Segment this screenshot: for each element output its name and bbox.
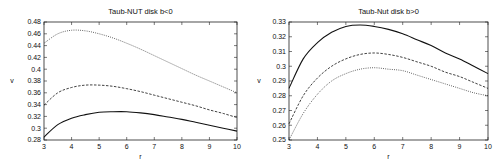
left-chart-panel: Taub-NUT disk b<03456789100.280.30.320.3… xyxy=(0,0,249,161)
y-tick-label: 0.32 xyxy=(272,33,286,40)
x-tick-label: 10 xyxy=(233,143,241,150)
x-tick-label: 4 xyxy=(70,143,74,150)
x-tick-label: 6 xyxy=(125,143,129,150)
y-tick-label: 0.25 xyxy=(272,136,286,143)
y-tick-label: 0.46 xyxy=(27,30,41,37)
y-tick-label: 0.29 xyxy=(272,77,286,84)
x-tick-label: 7 xyxy=(401,143,405,150)
y-tick-label: 0.32 xyxy=(27,113,41,120)
y-axis-label: v xyxy=(10,77,14,84)
x-tick-label: 3 xyxy=(42,143,46,150)
x-axis-label: r xyxy=(139,153,142,160)
plot-frame xyxy=(44,22,237,140)
x-tick-label: 9 xyxy=(458,143,462,150)
y-axis-label: v xyxy=(257,77,261,84)
y-tick-label: 0.44 xyxy=(27,42,41,49)
x-tick-label: 5 xyxy=(344,143,348,150)
x-tick-label: 3 xyxy=(287,143,291,150)
x-tick-label: 8 xyxy=(180,143,184,150)
y-tick-label: 0.26 xyxy=(272,122,286,129)
series-line-dashed xyxy=(289,53,488,124)
y-tick-label: 0.48 xyxy=(27,18,41,25)
x-tick-label: 9 xyxy=(207,143,211,150)
y-tick-label: 0.27 xyxy=(272,107,286,114)
series-line-solid xyxy=(289,25,488,88)
y-tick-label: 0.28 xyxy=(272,92,286,99)
y-tick-label: 0.34 xyxy=(27,101,41,108)
plot-frame xyxy=(289,22,488,140)
x-tick-label: 4 xyxy=(315,143,319,150)
series-line-dotted xyxy=(44,30,237,93)
right-chart-panel: Taub-Nut disk b>03456789100.250.260.270.… xyxy=(249,0,498,161)
y-tick-label: 0.31 xyxy=(272,48,286,55)
chart-taub-nut-b-positive: Taub-Nut disk b>03456789100.250.260.270.… xyxy=(249,0,498,161)
y-tick-label: 0.33 xyxy=(272,18,286,25)
x-tick-label: 7 xyxy=(152,143,156,150)
y-tick-label: 0.28 xyxy=(27,136,41,143)
y-tick-label: 0.3 xyxy=(276,63,286,70)
y-tick-label: 0.38 xyxy=(27,77,41,84)
y-tick-label: 0.42 xyxy=(27,54,41,61)
y-tick-label: 0.36 xyxy=(27,89,41,96)
x-tick-label: 5 xyxy=(97,143,101,150)
chart-title: Taub-Nut disk b>0 xyxy=(358,7,419,16)
series-line-solid xyxy=(44,112,237,137)
x-tick-label: 10 xyxy=(484,143,492,150)
chart-taub-nut-b-negative: Taub-NUT disk b<03456789100.280.30.320.3… xyxy=(0,0,249,161)
chart-title: Taub-NUT disk b<0 xyxy=(108,7,172,16)
x-axis-label: r xyxy=(387,153,390,160)
y-tick-label: 0.4 xyxy=(31,66,41,73)
x-tick-label: 8 xyxy=(429,143,433,150)
series-line-dotted xyxy=(289,68,488,140)
x-tick-label: 6 xyxy=(372,143,376,150)
y-tick-label: 0.3 xyxy=(31,125,41,132)
